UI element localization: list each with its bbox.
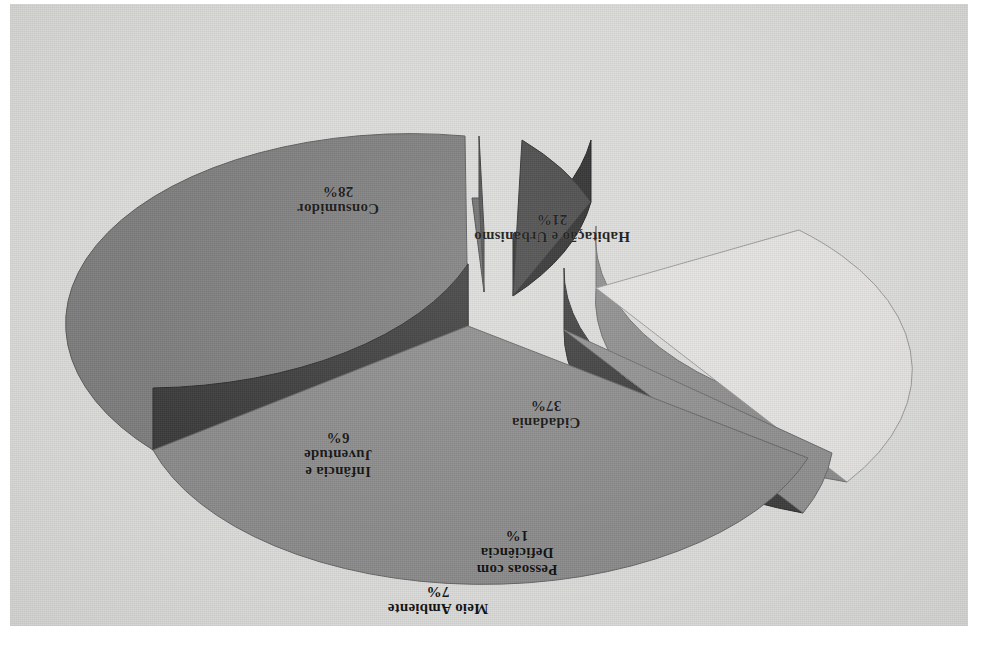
label-pessoas-com-deficiencia: Pessoas com Deficiência 1% (422, 528, 612, 578)
label-consumidor-pct: 28% (238, 183, 438, 200)
label-consumidor-name: Consumidor (297, 201, 379, 217)
label-infancia-e-juventude: Infância e Juventude 6% (248, 430, 428, 480)
label-cidadania: Cidadania 37% (446, 397, 646, 431)
label-deficiencia-line1: Pessoas com (477, 562, 558, 578)
label-infancia-line2: Juventude (304, 447, 372, 463)
page-root: Cidadania 37% Consumidor 28% Habitação e… (0, 0, 993, 655)
label-consumidor: Consumidor 28% (238, 183, 438, 217)
label-infancia-line1: Infância e (305, 464, 371, 480)
label-deficiencia-line2: Deficiência (481, 545, 554, 561)
label-infancia-pct: 6% (248, 430, 428, 447)
label-meio-ambiente-name: Meio Ambiente (388, 601, 489, 617)
label-habitacao-name: Habitação e Urbanismo (474, 229, 630, 245)
pie-chart-figure: Cidadania 37% Consumidor 28% Habitação e… (10, 4, 968, 626)
label-meio-ambiente: Meio Ambiente 7% (343, 583, 533, 617)
scanned-page: Cidadania 37% Consumidor 28% Habitação e… (10, 4, 968, 626)
label-deficiencia-pct: 1% (422, 528, 612, 545)
label-habitacao-pct: 21% (427, 211, 677, 228)
label-habitacao-e-urbanismo: Habitação e Urbanismo 21% (427, 211, 677, 245)
label-cidadania-pct: 37% (446, 397, 646, 414)
label-meio-ambiente-pct: 7% (343, 583, 533, 600)
label-cidadania-name: Cidadania (512, 415, 581, 431)
